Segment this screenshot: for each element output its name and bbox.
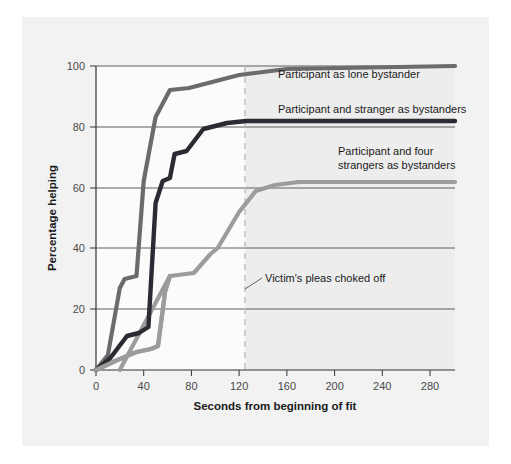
y-axis-title: Percentage helping <box>46 165 58 271</box>
y-tick-label-80: 80 <box>73 121 85 133</box>
y-tick-marks <box>90 66 96 370</box>
x-tick-label-280: 280 <box>421 380 439 392</box>
x-tick-label-80: 80 <box>185 380 197 392</box>
y-tick-label-100: 100 <box>67 60 85 72</box>
legend-label-one-stranger: Participant and stranger as bystanders <box>278 103 467 115</box>
x-tick-label-120: 120 <box>230 380 248 392</box>
victims-pleas-annotation-label: Victim's pleas choked off <box>265 272 386 284</box>
x-tick-label-200: 200 <box>325 380 343 392</box>
line-chart: 100 80 60 40 20 0 0 40 80 120 160 200 24… <box>0 0 511 464</box>
chart-container: 100 80 60 40 20 0 0 40 80 120 160 200 24… <box>0 0 511 464</box>
y-tick-label-20: 20 <box>73 303 85 315</box>
legend-label-four-strangers-line2: strangers as bystanders <box>338 159 456 171</box>
x-tick-label-160: 160 <box>278 380 296 392</box>
y-tick-label-40: 40 <box>73 242 85 254</box>
legend-label-four-strangers-line1: Participant and four <box>338 145 434 157</box>
x-axis-title: Seconds from beginning of fit <box>194 400 357 412</box>
y-tick-label-60: 60 <box>73 182 85 194</box>
x-tick-marks <box>96 370 430 376</box>
legend-label-lone-bystander: Participant as lone bystander <box>278 68 420 80</box>
x-tick-label-0: 0 <box>93 380 99 392</box>
y-tick-label-0: 0 <box>79 364 85 376</box>
x-tick-label-40: 40 <box>138 380 150 392</box>
x-tick-label-240: 240 <box>373 380 391 392</box>
